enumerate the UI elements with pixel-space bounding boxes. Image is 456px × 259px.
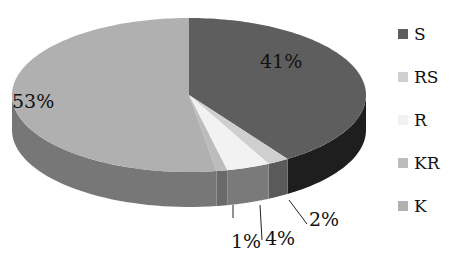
- slice-side-kr: [216, 170, 227, 206]
- data-label-kr: 1%: [231, 230, 261, 252]
- legend-item-kr: KR: [398, 141, 440, 184]
- data-label-r: 4%: [265, 227, 295, 249]
- legend-swatch: [398, 201, 408, 211]
- legend-item-rs: RS: [398, 55, 440, 98]
- legend-item-r: R: [398, 98, 440, 141]
- legend: S RS R KR K: [398, 12, 440, 227]
- legend-swatch: [398, 29, 408, 39]
- legend-swatch: [398, 72, 408, 82]
- pie-tops: [12, 18, 366, 172]
- legend-label: RS: [414, 67, 438, 87]
- legend-label: S: [414, 24, 426, 44]
- slice-side-rs: [269, 159, 288, 199]
- data-label-rs: 2%: [309, 208, 339, 230]
- pie-chart: 41%53%2%4%1%: [0, 0, 456, 259]
- leader-line: [289, 200, 307, 224]
- legend-item-s: S: [398, 12, 440, 55]
- legend-swatch: [398, 115, 408, 125]
- slice-side-r: [227, 164, 268, 205]
- legend-item-k: K: [398, 184, 440, 227]
- data-label-k: 53%: [12, 90, 54, 112]
- legend-label: KR: [414, 153, 440, 173]
- legend-label: K: [414, 196, 427, 216]
- data-label-s: 41%: [260, 50, 302, 72]
- legend-label: R: [414, 110, 427, 130]
- legend-swatch: [398, 158, 408, 168]
